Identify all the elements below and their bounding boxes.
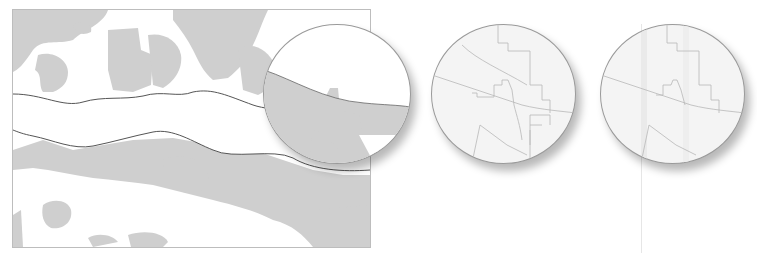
magnifier-lens (263, 24, 411, 164)
detail-lens-1 (431, 24, 576, 164)
detail-lens-2 (600, 24, 745, 164)
